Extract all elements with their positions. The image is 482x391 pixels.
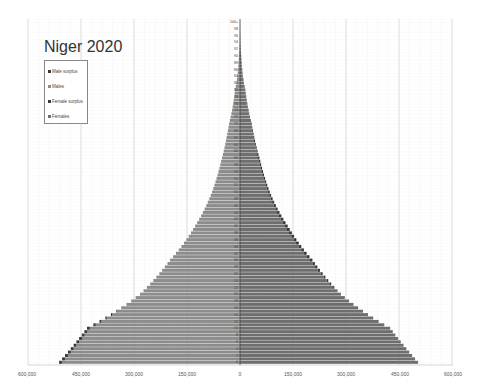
svg-text:90: 90 xyxy=(234,54,238,58)
svg-text:22: 22 xyxy=(234,286,238,290)
svg-text:8: 8 xyxy=(236,333,238,337)
svg-text:48: 48 xyxy=(234,197,238,201)
svg-text:64: 64 xyxy=(234,143,238,147)
svg-text:50: 50 xyxy=(234,190,238,194)
svg-text:4: 4 xyxy=(236,347,238,351)
legend-item-male-surplus: Male surplus xyxy=(48,69,78,74)
legend: Male surplus Males Female surplus Female… xyxy=(44,60,88,124)
svg-text:62: 62 xyxy=(234,149,238,153)
svg-text:44: 44 xyxy=(234,211,238,215)
svg-text:34: 34 xyxy=(234,245,238,249)
svg-text:18: 18 xyxy=(234,299,238,303)
svg-text:36: 36 xyxy=(234,238,238,242)
legend-label: Male surplus xyxy=(52,69,78,74)
chart-title: Niger 2020 xyxy=(44,38,122,56)
x-tick-label: 450,000 xyxy=(72,371,90,377)
x-tick-label: 450,000 xyxy=(391,371,409,377)
legend-label: Females xyxy=(52,114,69,119)
svg-text:38: 38 xyxy=(234,231,238,235)
svg-text:92: 92 xyxy=(234,47,238,51)
legend-label: Males xyxy=(52,84,64,89)
svg-text:20: 20 xyxy=(234,292,238,296)
svg-text:42: 42 xyxy=(234,217,238,221)
x-tick-label: 150,000 xyxy=(178,371,196,377)
svg-text:54: 54 xyxy=(234,177,238,181)
svg-text:66: 66 xyxy=(234,136,238,140)
svg-text:40: 40 xyxy=(234,224,238,228)
x-tick-label: 300,000 xyxy=(125,371,143,377)
female-surplus-swatch xyxy=(48,100,51,103)
svg-text:14: 14 xyxy=(234,313,238,317)
svg-text:2: 2 xyxy=(236,354,238,358)
svg-text:78: 78 xyxy=(234,95,238,99)
svg-text:60: 60 xyxy=(234,156,238,160)
svg-text:76: 76 xyxy=(234,102,238,106)
svg-text:26: 26 xyxy=(234,272,238,276)
male-surplus-swatch xyxy=(48,70,51,73)
svg-text:10: 10 xyxy=(234,326,238,330)
x-tick-label: 600,000 xyxy=(18,371,36,377)
legend-item-females: Females xyxy=(48,114,69,119)
svg-text:32: 32 xyxy=(234,252,238,256)
svg-text:96: 96 xyxy=(234,34,238,38)
svg-text:72: 72 xyxy=(234,115,238,119)
svg-text:88: 88 xyxy=(234,61,238,65)
females-swatch xyxy=(48,115,51,118)
svg-text:68: 68 xyxy=(234,129,238,133)
svg-text:12: 12 xyxy=(234,320,238,324)
x-tick-label: 300,000 xyxy=(337,371,355,377)
svg-text:0: 0 xyxy=(236,360,238,364)
svg-text:52: 52 xyxy=(234,183,238,187)
svg-text:56: 56 xyxy=(234,170,238,174)
svg-text:100+: 100+ xyxy=(230,20,238,24)
svg-text:84: 84 xyxy=(234,74,238,78)
legend-item-males: Males xyxy=(48,84,64,89)
svg-text:94: 94 xyxy=(234,40,238,44)
svg-text:74: 74 xyxy=(234,108,238,112)
svg-text:30: 30 xyxy=(234,258,238,262)
x-tick-label: 0 xyxy=(239,371,242,377)
svg-text:70: 70 xyxy=(234,122,238,126)
legend-label: Female surplus xyxy=(52,99,83,104)
svg-text:58: 58 xyxy=(234,163,238,167)
svg-text:28: 28 xyxy=(234,265,238,269)
svg-text:82: 82 xyxy=(234,81,238,85)
svg-text:46: 46 xyxy=(234,204,238,208)
svg-text:6: 6 xyxy=(236,340,238,344)
population-pyramid-chart: 0246810121416182022242628303234363840424… xyxy=(0,0,482,391)
svg-text:24: 24 xyxy=(234,279,238,283)
x-tick-label: 600,000 xyxy=(444,371,462,377)
svg-text:98: 98 xyxy=(234,27,238,31)
x-tick-label: 150,000 xyxy=(284,371,302,377)
legend-item-female-surplus: Female surplus xyxy=(48,99,83,104)
svg-text:80: 80 xyxy=(234,88,238,92)
svg-text:86: 86 xyxy=(234,68,238,72)
males-swatch xyxy=(48,85,51,88)
svg-text:16: 16 xyxy=(234,306,238,310)
